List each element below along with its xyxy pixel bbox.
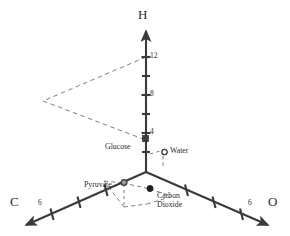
axis-label-o: O bbox=[268, 195, 277, 208]
point-label-water: Water bbox=[170, 147, 188, 155]
marker-pyruvate[interactable] bbox=[121, 180, 127, 186]
axes-diagram bbox=[0, 0, 290, 236]
dashed-water-projection bbox=[150, 151, 163, 167]
point-label-pyruvate: Pyruvate bbox=[84, 181, 112, 189]
axis-o-tick-6: 6 bbox=[248, 199, 252, 207]
axis-c-ticks bbox=[51, 185, 108, 221]
axis-o-ticks bbox=[185, 185, 243, 221]
marker-water[interactable] bbox=[162, 149, 167, 154]
axis-label-c: C bbox=[10, 195, 19, 208]
axis-h-tick-4: 4 bbox=[150, 128, 154, 136]
marker-glucose[interactable] bbox=[143, 136, 149, 142]
figure-canvas: H C O 12 8 4 6 6 Glucose Water Pyruvate … bbox=[0, 0, 290, 236]
axis-c-tick-6: 6 bbox=[38, 199, 42, 207]
marker-carbon-dioxide[interactable] bbox=[147, 186, 153, 192]
point-label-glucose: Glucose bbox=[105, 143, 131, 151]
dashed-glucose-projection bbox=[43, 57, 146, 139]
axis-h-tick-12: 12 bbox=[150, 52, 158, 60]
axis-h-tick-8: 8 bbox=[150, 90, 154, 98]
point-label-carbon-dioxide: Carbon Dioxide bbox=[157, 192, 182, 209]
point-label-carbon-dioxide-line2: Dioxide bbox=[157, 201, 182, 210]
axis-label-h: H bbox=[138, 8, 147, 21]
